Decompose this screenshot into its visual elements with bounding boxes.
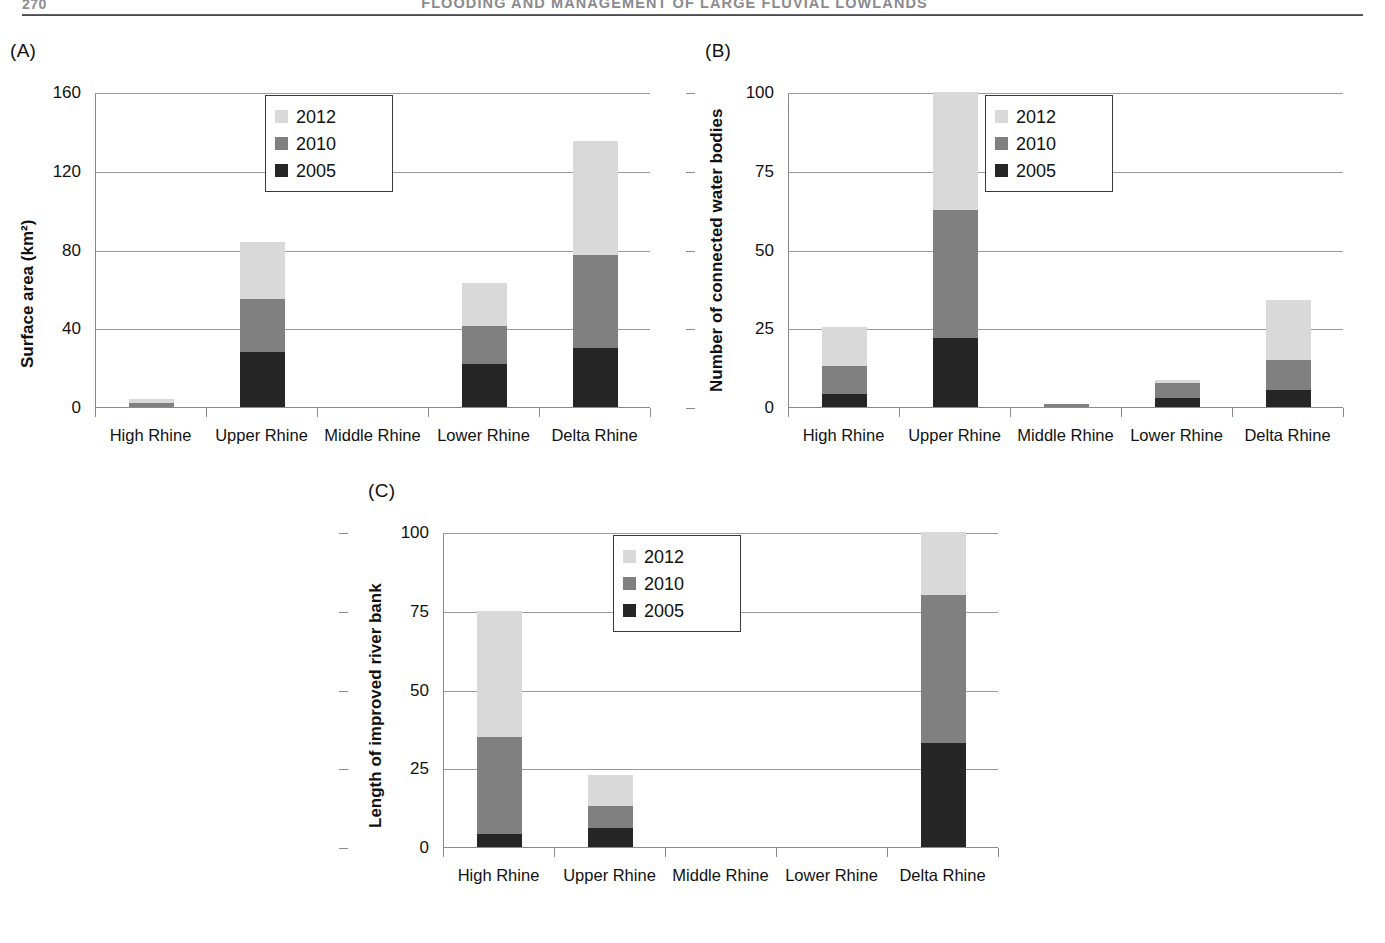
y-axis-label-c: Length of improved river bank [366, 583, 386, 828]
legend-item-2012-a: 2012 [275, 103, 380, 130]
bar-segment-2005-b-3 [1155, 398, 1200, 407]
legend-swatch-2005 [995, 164, 1008, 177]
x-category-label-a-4: Delta Rhine [551, 426, 637, 445]
y-tick-label-b-75: 75 [742, 162, 774, 182]
legend-swatch-2010 [623, 577, 636, 590]
y-axis-label-b: Number of connected water bodies [707, 109, 727, 392]
y-tick-label-b-100: 100 [742, 83, 774, 103]
legend-swatch-2012 [995, 110, 1008, 123]
gridline-b-25 [789, 329, 1343, 330]
legend-swatch-2005 [275, 164, 288, 177]
bar-segment-2012-b-1 [933, 92, 978, 210]
bar-segment-2005-c-0 [477, 834, 522, 847]
x-category-label-c-4: Delta Rhine [899, 866, 985, 885]
y-tick-mark-b-75 [686, 172, 695, 173]
legend-item-2005-a: 2005 [275, 157, 380, 184]
legend-label-2012: 2012 [296, 108, 336, 126]
y-tick-mark-c-75 [339, 612, 348, 613]
bar-segment-2012-b-0 [822, 327, 867, 366]
legend-swatch-2012 [623, 550, 636, 563]
bar-c-1 [588, 775, 633, 847]
y-tick-label-b-25: 25 [742, 319, 774, 339]
bar-a-3 [462, 283, 507, 407]
chart-panel-a: (A)Surface area (km²)04080120160High Rhi… [0, 40, 690, 460]
x-tick-mark-b-2 [1010, 408, 1011, 417]
x-category-label-c-3: Lower Rhine [785, 866, 878, 885]
x-category-label-c-0: High Rhine [458, 866, 540, 885]
bar-segment-2012-c-4 [921, 532, 966, 595]
legend-label-2012: 2012 [644, 548, 684, 566]
x-category-label-b-3: Lower Rhine [1130, 426, 1223, 445]
bar-segment-2012-c-0 [477, 611, 522, 737]
bar-segment-2012-a-0 [129, 399, 174, 403]
x-category-label-b-1: Upper Rhine [908, 426, 1001, 445]
y-tick-label-a-80: 80 [49, 241, 81, 261]
x-tick-mark-c-1 [554, 848, 555, 857]
gridline-c-100 [444, 533, 998, 534]
legend-label-2010: 2010 [296, 135, 336, 153]
x-tick-mark-b-1 [899, 408, 900, 417]
x-tick-mark-a-2 [317, 408, 318, 417]
gridline-c-50 [444, 691, 998, 692]
legend-b: 201220102005 [985, 95, 1113, 192]
bar-a-0 [129, 399, 174, 407]
bar-b-2 [1044, 404, 1089, 407]
bar-segment-2010-b-1 [933, 210, 978, 338]
legend-c: 201220102005 [613, 535, 741, 632]
y-tick-label-c-75: 75 [397, 602, 429, 622]
bar-a-4 [573, 141, 618, 407]
bar-segment-2010-c-4 [921, 595, 966, 743]
y-tick-label-b-0: 0 [742, 398, 774, 418]
gridline-a-160 [96, 93, 650, 94]
bar-segment-2012-b-4 [1266, 300, 1311, 360]
legend-item-2010-b: 2010 [995, 130, 1100, 157]
x-tick-mark-c-0 [443, 848, 444, 857]
legend-swatch-2010 [275, 137, 288, 150]
bar-segment-2010-a-0 [129, 403, 174, 407]
x-tick-mark-a-4 [539, 408, 540, 417]
x-tick-mark-c-3 [776, 848, 777, 857]
x-category-label-b-2: Middle Rhine [1017, 426, 1113, 445]
bar-segment-2005-c-1 [588, 828, 633, 847]
legend-label-2005: 2005 [296, 162, 336, 180]
bar-segment-2012-a-1 [240, 242, 285, 299]
y-tick-mark-c-25 [339, 769, 348, 770]
bar-a-1 [240, 242, 285, 407]
x-tick-mark-a-3 [428, 408, 429, 417]
gridline-a-80 [96, 251, 650, 252]
x-tick-mark-a-0 [95, 408, 96, 417]
legend-item-2012-b: 2012 [995, 103, 1100, 130]
legend-a: 201220102005 [265, 95, 393, 192]
bar-segment-2010-a-1 [240, 299, 285, 352]
x-category-label-c-2: Middle Rhine [672, 866, 768, 885]
y-tick-label-b-50: 50 [742, 241, 774, 261]
bar-segment-2005-c-4 [921, 743, 966, 847]
y-tick-mark-b-25 [686, 329, 695, 330]
panel-letter-a: (A) [10, 40, 36, 62]
panel-letter-c: (C) [368, 480, 395, 502]
x-tick-mark-a-1 [206, 408, 207, 417]
legend-swatch-2005 [623, 604, 636, 617]
x-tick-mark-c-4 [887, 848, 888, 857]
y-tick-mark-c-50 [339, 691, 348, 692]
bar-segment-2005-b-0 [822, 394, 867, 407]
x-tick-mark-c-end [998, 848, 999, 857]
running-head-title: FLOODING AND MANAGEMENT OF LARGE FLUVIAL… [0, 0, 1385, 11]
bar-c-0 [477, 611, 522, 847]
y-tick-label-c-100: 100 [397, 523, 429, 543]
y-tick-label-a-160: 160 [49, 83, 81, 103]
y-axis-label-a: Surface area (km²) [18, 220, 38, 368]
bar-segment-2010-a-3 [462, 326, 507, 363]
x-tick-mark-b-3 [1121, 408, 1122, 417]
y-tick-mark-c-100 [339, 533, 348, 534]
x-category-label-a-2: Middle Rhine [324, 426, 420, 445]
gridline-b-100 [789, 93, 1343, 94]
bar-segment-2012-b-3 [1155, 380, 1200, 383]
legend-label-2005: 2005 [644, 602, 684, 620]
bar-c-4 [921, 532, 966, 847]
legend-item-2010-a: 2010 [275, 130, 380, 157]
bar-segment-2010-c-1 [588, 806, 633, 828]
bar-segment-2005-a-4 [573, 348, 618, 407]
legend-label-2010: 2010 [1016, 135, 1056, 153]
header-divider-rule [22, 14, 1363, 16]
